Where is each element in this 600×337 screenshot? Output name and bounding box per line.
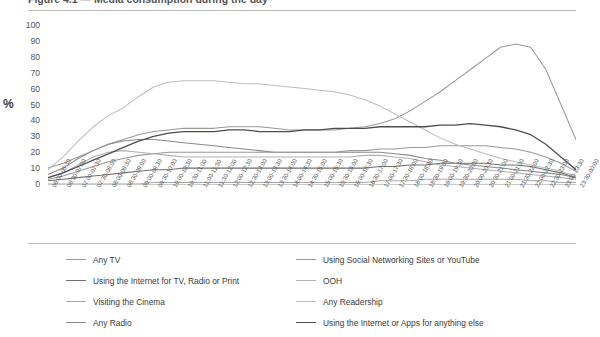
legend-item-label: Any TV xyxy=(93,255,120,265)
y-axis-tick: 0 xyxy=(0,180,40,188)
series-line xyxy=(48,44,576,168)
chart-legend: Any TVUsing the Internet for TV, Radio o… xyxy=(28,249,576,333)
legend-item-label: Visiting the Cinema xyxy=(93,297,165,307)
title-divider xyxy=(28,10,576,11)
legend-color-swatch xyxy=(66,301,86,303)
legend-color-swatch xyxy=(296,301,316,303)
legend-item[interactable]: Using the Internet for TV, Radio or Prin… xyxy=(66,270,334,291)
legend-color-swatch xyxy=(296,322,316,324)
legend-item-label: Using Social Networking Sites or YouTube xyxy=(323,255,480,265)
y-axis-tick: 40 xyxy=(0,116,40,124)
legend-item[interactable]: Using the Internet or Apps for anything … xyxy=(296,312,564,333)
chart-title-strip: Figure 4.1 — Media consumption during th… xyxy=(0,0,582,9)
legend-item[interactable]: Any TV xyxy=(66,249,334,270)
chart-title: Figure 4.1 — Media consumption during th… xyxy=(28,0,268,5)
y-axis-tick: 100 xyxy=(0,21,40,29)
y-axis-tick: 60 xyxy=(0,85,40,93)
legend-color-swatch xyxy=(296,259,316,261)
legend-color-swatch xyxy=(66,280,86,282)
legend-column-left: Any TVUsing the Internet for TV, Radio o… xyxy=(66,249,334,333)
y-axis-tick: 80 xyxy=(0,53,40,61)
legend-item[interactable]: Using Social Networking Sites or YouTube xyxy=(296,249,564,270)
y-axis-tick: 70 xyxy=(0,69,40,77)
legend-item[interactable]: Any Readership xyxy=(296,291,564,312)
legend-color-swatch xyxy=(66,259,86,261)
legend-item[interactable]: Any Radio xyxy=(66,312,334,333)
legend-item-label: Any Radio xyxy=(93,318,132,328)
y-axis-tick: 30 xyxy=(0,132,40,140)
legend-item[interactable]: OOH xyxy=(296,270,564,291)
legend-item-label: Any Readership xyxy=(323,297,383,307)
legend-divider xyxy=(28,243,576,244)
y-axis-tick: 90 xyxy=(0,37,40,45)
y-axis-unit-label: % xyxy=(3,97,14,111)
legend-item-label: OOH xyxy=(323,276,342,286)
legend-item[interactable]: Visiting the Cinema xyxy=(66,291,334,312)
x-axis-labels: 06:00-06:3006:30-07:0007:00-07:3007:30-0… xyxy=(48,185,582,240)
legend-color-swatch xyxy=(66,322,86,324)
legend-column-right: Using Social Networking Sites or YouTube… xyxy=(296,249,564,333)
legend-item-label: Using the Internet for TV, Radio or Prin… xyxy=(93,276,239,286)
legend-color-swatch xyxy=(296,280,316,282)
legend-item-label: Using the Internet or Apps for anything … xyxy=(323,318,484,328)
y-axis-tick: 10 xyxy=(0,164,40,172)
y-axis-tick: 20 xyxy=(0,148,40,156)
